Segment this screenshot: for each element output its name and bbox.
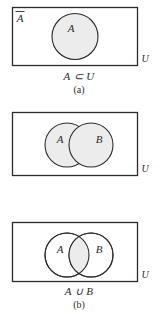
- set-label-a: A: [67, 22, 75, 34]
- venn-panel-b: A B U A ∪ B (b): [0, 105, 158, 215]
- venn-panel-a: A A U A ⊂ U (a): [0, 0, 158, 105]
- venn-svg-a: A A U: [0, 0, 158, 70]
- universe-label-b: U: [141, 163, 149, 174]
- venn-panel-c: A B U A ∩ B (c): [0, 215, 158, 327]
- set-circle-a: [52, 14, 98, 60]
- venn-diagram-figure: A A U A ⊂ U (a) A B U A ∪ B (b): [0, 0, 158, 327]
- set-label-a-c: A: [56, 243, 64, 255]
- set-label-b-b: B: [96, 133, 103, 145]
- caption-expression-a: A ⊂ U: [0, 70, 158, 83]
- caption-label-a: (a): [0, 84, 158, 95]
- universe-label-a: U: [141, 53, 149, 64]
- venn-svg-c: A B U: [0, 215, 158, 287]
- set-label-b-c: B: [96, 243, 103, 255]
- universe-label-c: U: [141, 269, 149, 280]
- complement-label-a: A: [16, 12, 24, 24]
- set-circle-b-b: [69, 123, 113, 167]
- set-label-a-b: A: [56, 133, 64, 145]
- venn-svg-b: A B U: [0, 105, 158, 180]
